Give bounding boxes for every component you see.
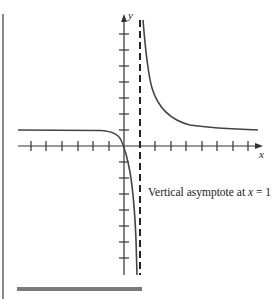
annotation-suffix: = 1: [253, 186, 271, 198]
bottom-rule: [17, 287, 142, 291]
asymptote-annotation: Vertical asymptote at x = 1: [148, 186, 271, 198]
y-axis-arrow-icon: [121, 14, 127, 22]
y-axis-label: y: [128, 9, 133, 21]
curve-left-branch: [18, 130, 137, 275]
annotation-prefix: Vertical asymptote at: [148, 186, 248, 198]
curve-right-branch: [143, 20, 258, 130]
chart-canvas: [0, 0, 274, 299]
x-axis: [18, 141, 258, 151]
x-axis-label: x: [259, 148, 264, 160]
